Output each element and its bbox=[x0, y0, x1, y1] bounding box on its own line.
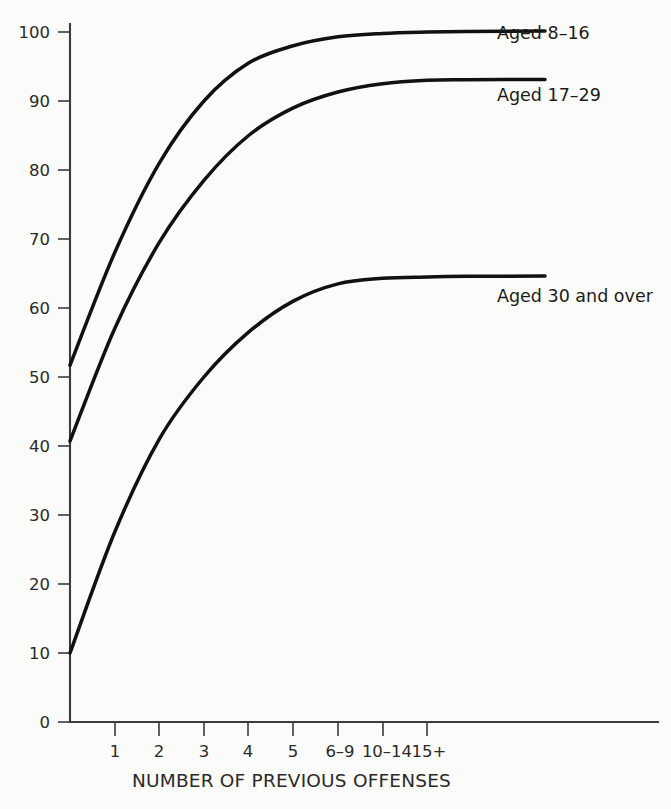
x-tick-label-5: 5 bbox=[288, 742, 299, 761]
y-tick-label-50: 50 bbox=[29, 368, 50, 387]
series-curve-aged-17-29 bbox=[70, 79, 545, 441]
x-tick-label-1: 1 bbox=[110, 742, 121, 761]
x-tick-labels: 1 2 3 4 5 6–9 10–14 15+ bbox=[110, 742, 447, 761]
x-axis-title: NUMBER OF PREVIOUS OFFENSES bbox=[132, 770, 451, 791]
y-tick-label-0: 0 bbox=[40, 713, 51, 732]
x-tick-label-6-9: 6–9 bbox=[325, 742, 354, 761]
series-label-aged-17-29: Aged 17–29 bbox=[497, 85, 601, 105]
x-tick-label-10-14: 10–14 bbox=[362, 742, 412, 761]
axes-group bbox=[70, 24, 658, 722]
x-tick-label-15plus: 15+ bbox=[412, 742, 447, 761]
y-tick-label-60: 60 bbox=[29, 299, 50, 318]
series-labels-group: Aged 8–16 Aged 17–29 Aged 30 and over bbox=[497, 23, 654, 306]
chart-svg: 0 10 20 30 40 50 60 70 80 90 100 1 2 3 bbox=[0, 0, 671, 809]
series-curve-aged-30-over bbox=[70, 276, 545, 653]
y-tick-label-10: 10 bbox=[29, 644, 50, 663]
chart-figure: 0 10 20 30 40 50 60 70 80 90 100 1 2 3 bbox=[0, 0, 671, 809]
y-tick-label-20: 20 bbox=[29, 575, 50, 594]
y-tick-label-40: 40 bbox=[29, 437, 50, 456]
y-tick-labels: 0 10 20 30 40 50 60 70 80 90 100 bbox=[19, 23, 51, 732]
x-tick-label-2: 2 bbox=[154, 742, 165, 761]
series-label-aged-30-over: Aged 30 and over bbox=[497, 286, 654, 306]
x-tick-marks bbox=[115, 722, 427, 736]
series-label-aged-8-16: Aged 8–16 bbox=[497, 23, 590, 43]
y-tick-marks bbox=[58, 32, 70, 722]
x-tick-label-3: 3 bbox=[199, 742, 210, 761]
x-tick-label-4: 4 bbox=[243, 742, 254, 761]
y-tick-label-90: 90 bbox=[29, 92, 50, 111]
y-tick-label-30: 30 bbox=[29, 506, 50, 525]
y-tick-label-70: 70 bbox=[29, 230, 50, 249]
y-tick-label-80: 80 bbox=[29, 161, 50, 180]
y-tick-label-100: 100 bbox=[19, 23, 51, 42]
